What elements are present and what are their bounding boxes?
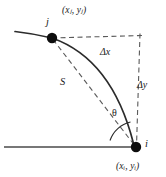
chord-line-s [53, 40, 135, 147]
geometry-diagram: (xⱼ, yⱼ) (xᵢ, yᵢ) j i Δx Δy S θ [0, 0, 166, 177]
delta-y-label: Δy [137, 80, 147, 90]
node-i-marker [131, 142, 141, 152]
coordinate-label-j: (xⱼ, yⱼ) [62, 6, 86, 16]
arc-tail-path [15, 32, 52, 39]
angle-label-theta: θ [112, 108, 117, 118]
delta-x-label: Δx [100, 47, 110, 57]
node-label-i: i [145, 139, 148, 150]
node-j-marker [47, 33, 57, 43]
node-label-j: j [46, 17, 49, 28]
arc-length-label-s: S [60, 77, 65, 88]
dashed-horizontal-leg [52, 36, 142, 39]
coordinate-label-i: (xᵢ, yᵢ) [116, 162, 139, 172]
